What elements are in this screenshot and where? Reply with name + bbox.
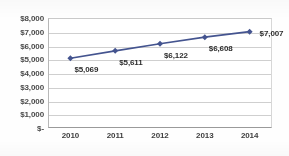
- y-axis-tick-labels: $-$1,000$2,000$3,000$4,000$5,000$6,000$7…: [0, 18, 44, 128]
- data-point-marker: [202, 34, 208, 40]
- y-axis-tick-label: $3,000: [0, 82, 44, 91]
- data-point-marker: [247, 29, 253, 35]
- x-axis-tick-label: 2012: [151, 131, 168, 140]
- y-axis-tick-label: $5,000: [0, 55, 44, 64]
- data-point-label: $6,608: [209, 44, 233, 53]
- data-point-label: $5,611: [119, 57, 142, 66]
- data-point-label: $5,069: [74, 65, 98, 74]
- gridline: [49, 129, 271, 130]
- x-axis-tick-label: 2013: [196, 131, 213, 140]
- y-axis-tick-label: $8,000: [0, 14, 44, 23]
- y-axis-tick-label: $7,000: [0, 27, 44, 36]
- y-axis-tick-label: $6,000: [0, 41, 44, 50]
- x-axis-tick-label: 2014: [241, 131, 258, 140]
- data-point-label: $6,122: [164, 50, 188, 59]
- chart-title: [0, 0, 289, 4]
- data-point-marker: [67, 55, 73, 61]
- y-axis-tick-label: $4,000: [0, 69, 44, 78]
- y-axis-tick-label: $1,000: [0, 110, 44, 119]
- y-axis-tick-label: $2,000: [0, 96, 44, 105]
- data-point-label: $7,007: [260, 28, 284, 37]
- x-axis-tick-label: 2011: [107, 131, 124, 140]
- y-axis-tick-label: $-: [0, 124, 44, 133]
- x-axis-tick-label: 2010: [62, 131, 79, 140]
- x-axis-tick-labels: 20102011201220132014: [48, 131, 272, 145]
- line-chart: $-$1,000$2,000$3,000$4,000$5,000$6,000$7…: [0, 0, 289, 156]
- data-point-marker: [157, 41, 163, 47]
- data-point-marker: [112, 48, 118, 54]
